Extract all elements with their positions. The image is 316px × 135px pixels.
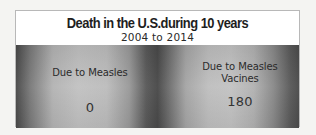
stats-band: Due to Measles 0 Due to Measles Vacines …	[16, 45, 299, 128]
infographic-panel: Death in the U.S.during 10 years 2004 to…	[15, 10, 300, 127]
infographic-canvas: Death in the U.S.during 10 years 2004 to…	[0, 0, 316, 135]
stat-value: 180	[184, 95, 296, 109]
stat-label: Due to Measles	[34, 67, 146, 79]
infographic-title: Death in the U.S.during 10 years	[36, 11, 279, 30]
infographic-subtitle: 2004 to 2014	[16, 31, 299, 43]
title-box: Death in the U.S.during 10 years 2004 to…	[16, 11, 299, 45]
stat-measles-deaths: Due to Measles 0	[34, 45, 146, 128]
stat-label: Due to Measles Vacines	[184, 61, 296, 85]
stat-vaccine-deaths: Due to Measles Vacines 180	[184, 45, 296, 128]
stat-value: 0	[34, 101, 146, 115]
